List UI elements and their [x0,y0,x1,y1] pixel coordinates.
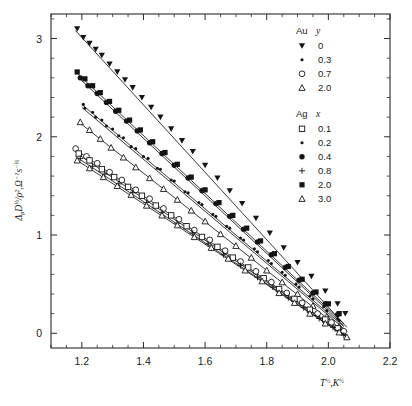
data-point [159,151,164,156]
data-point [228,227,231,230]
data-series [82,107,344,329]
data-point [99,167,104,172]
data-point [248,255,254,261]
data-point [213,201,218,206]
data-point [82,76,87,81]
data-series [74,157,350,340]
legend-entry-label: 2.0 [318,179,331,190]
fit-line [82,107,344,328]
data-point [184,223,189,228]
legend-entry-label: 3.0 [318,193,331,204]
data-point [80,35,86,41]
data-point [160,186,166,192]
data-point [170,178,173,181]
data-point [190,149,196,155]
y-tick-label: 1 [36,229,42,241]
data-point [122,136,125,139]
data-point [256,250,259,253]
data-point [325,309,328,312]
legend-entry-label: 0.1 [318,123,331,134]
data-point [270,262,273,265]
x-axis-label: T½,K½ [320,377,344,388]
data-point [142,155,145,158]
data-series [77,119,344,331]
legend-marker [299,168,305,174]
data-point [241,226,246,231]
legend-marker [299,85,305,91]
data-point [87,158,92,163]
data-point [294,283,297,286]
data-point [130,85,136,91]
data-point [283,265,288,270]
legend-marker [299,154,304,159]
data-point [279,279,285,285]
scatter-plot-canvas: 1.21.41.61.82.02.20123T½,K½ΔρD½/ρ2,Ω−1s−… [0,0,412,406]
legend-group-header: Ag [296,108,308,119]
legend-entry-label: 0 [318,40,323,51]
legend-marker [300,58,303,61]
data-point [268,279,274,285]
legend-entry-label: 0.4 [318,151,331,162]
data-point [173,179,176,182]
data-point [335,301,341,307]
data-point [253,216,259,222]
x-tick-label: 1.4 [136,355,151,367]
data-point [130,145,133,148]
data-point [147,140,152,145]
data-point [105,124,108,127]
data-point [147,157,150,160]
data-point [76,151,81,156]
data-point [90,83,95,88]
legend-marker [299,182,304,187]
data-point [202,163,208,169]
data-point [199,188,204,193]
data-point [215,244,220,249]
data-point [225,225,228,228]
data-point [125,184,130,189]
data-point [227,214,232,219]
data-point [322,288,328,294]
data-point [113,109,118,114]
data-point [284,274,287,277]
data-point [335,312,340,317]
x-tick-label: 2.2 [383,355,398,367]
data-point [156,167,159,170]
legend-entry-label: 2.0 [318,82,331,93]
data-point [191,227,197,233]
data-series-layer [73,26,350,340]
data-point [267,230,273,236]
legend-marker [299,43,305,49]
data-point [134,147,137,150]
data-point [255,239,260,244]
legend-group-variable: x [315,109,321,119]
data-point [311,297,314,300]
data-point [104,100,109,105]
data-point [308,294,311,297]
data-point [168,213,173,218]
data-point [111,174,116,179]
plot-frame [51,14,390,348]
legend-marker [299,126,304,131]
y-axis-label: ΔρD½/ρ2,Ω−1s−½ [13,159,25,221]
data-point [264,267,270,273]
figure-container: 1.21.41.61.82.02.20123T½,K½ΔρD½/ρ2,Ω−1s−… [0,0,412,406]
data-point [174,197,180,203]
data-point [298,286,301,289]
data-point [159,168,162,171]
legend-group-header: Au [296,25,308,36]
data-point [310,290,315,295]
data-point [139,193,144,198]
data-point [239,201,245,207]
data-point [202,218,208,224]
data-point [322,305,325,308]
data-point [75,69,80,74]
data-point [342,311,348,317]
x-tick-label: 2.0 [321,355,336,367]
legend-entry-label: 0.7 [318,68,331,79]
data-point [267,259,270,262]
data-point [147,196,153,202]
data-point [281,245,287,251]
data-point [139,95,145,101]
data-point [233,243,239,249]
data-point [315,311,321,317]
